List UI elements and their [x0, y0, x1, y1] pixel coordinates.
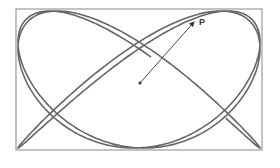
lissajous-diagram: P	[0, 0, 280, 168]
bounding-rectangle	[16, 9, 262, 150]
lissajous-curve	[18, 11, 260, 148]
point-p-label: P	[199, 17, 205, 27]
center-point	[139, 82, 142, 85]
